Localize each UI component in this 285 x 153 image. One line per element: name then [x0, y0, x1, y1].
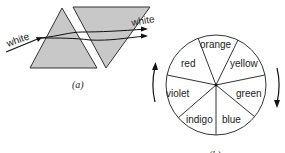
sector-green: green	[236, 88, 262, 99]
sector-blue: blue	[222, 114, 241, 125]
sector-violet: violet	[166, 88, 190, 99]
ray-upper-arrow-icon	[141, 27, 148, 32]
dispersion-diagram: white white (a) orange yellow green blue…	[0, 0, 285, 153]
figure-b: orange yellow green blue indigo violet r…	[152, 35, 280, 153]
ray-lower-arrow-icon	[141, 34, 148, 39]
rotation-arrow-right-head-icon	[274, 100, 280, 108]
caption-b: (b)	[209, 149, 221, 153]
rotation-arrow-left	[153, 67, 155, 102]
sector-yellow: yellow	[230, 58, 259, 69]
sector-indigo: indigo	[186, 114, 213, 125]
incoming-white-label: white	[4, 30, 31, 49]
figure-a: white white (a)	[4, 7, 156, 91]
wheel-center	[215, 84, 218, 87]
sector-red: red	[181, 58, 195, 69]
rotation-arrow-left-head-icon	[152, 62, 158, 70]
sector-orange: orange	[200, 39, 232, 50]
rotation-arrow-right	[277, 68, 279, 103]
caption-a: (a)	[72, 79, 84, 91]
